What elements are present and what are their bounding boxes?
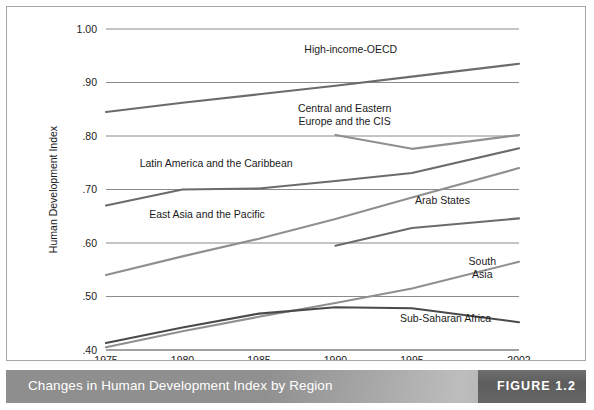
figure-container: .40.50.60.70.80.901.00 19751980198519901…	[0, 0, 594, 410]
series-label: South	[469, 255, 497, 267]
y-axis-title-text: Human Development Index	[47, 125, 59, 253]
x-tick-label: 1990	[324, 354, 348, 361]
chart-panel: .40.50.60.70.80.901.00 19751980198519901…	[6, 6, 586, 361]
series-line	[106, 262, 519, 348]
x-tick-label: 1980	[171, 354, 195, 361]
x-tick-label: 1985	[247, 354, 271, 361]
y-tick-label: .80	[82, 130, 97, 142]
y-tick-label: .90	[82, 76, 97, 88]
caption-title: Changes in Human Development Index by Re…	[28, 378, 333, 393]
gridlines	[106, 29, 519, 350]
x-tick-label: 1975	[94, 354, 118, 361]
series-label: Europe and the CIS	[299, 115, 391, 127]
figure-number-label: FIGURE 1.2	[497, 379, 576, 393]
y-axis-title: Human Development Index	[47, 125, 59, 253]
series-line	[335, 135, 519, 149]
series-label: Asia	[472, 268, 493, 280]
x-tick-label: 1995	[400, 354, 424, 361]
y-tick-label: .60	[82, 237, 97, 249]
series-label: Central and Eastern	[298, 102, 392, 114]
y-tick-label: .70	[82, 183, 97, 195]
y-axis-tick-labels: .40.50.60.70.80.901.00	[77, 23, 98, 356]
caption-bar: Changes in Human Development Index by Re…	[6, 370, 586, 403]
x-tick-label: 2002	[507, 354, 531, 361]
series-label: East Asia and the Pacific	[149, 208, 265, 220]
y-tick-label: 1.00	[77, 23, 98, 35]
y-tick-label: .50	[82, 290, 97, 302]
series-label: Sub-Saharan Africa	[400, 312, 491, 324]
x-axis-tick-labels: 197519801985199019952002	[94, 354, 531, 361]
series-line	[335, 218, 519, 245]
series-label: Latin America and the Caribbean	[140, 157, 293, 169]
series-label: Arab States	[415, 194, 470, 206]
series-label: High-income-OECD	[304, 43, 397, 55]
line-chart: .40.50.60.70.80.901.00 19751980198519901…	[7, 7, 585, 360]
